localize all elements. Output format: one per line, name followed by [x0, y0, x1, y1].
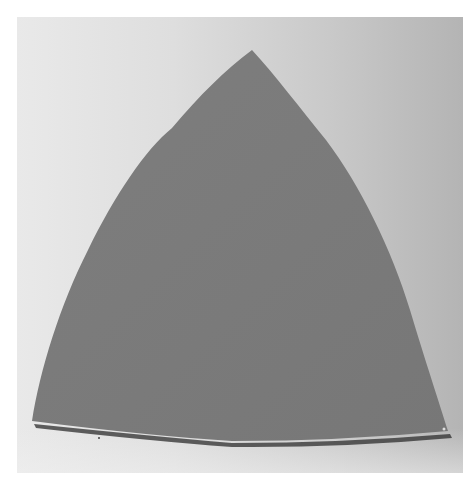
corner-highlight [443, 428, 446, 431]
backdrop-speck [98, 437, 100, 439]
artwork-scene [0, 0, 474, 482]
curved-triangle-panel [32, 50, 448, 441]
